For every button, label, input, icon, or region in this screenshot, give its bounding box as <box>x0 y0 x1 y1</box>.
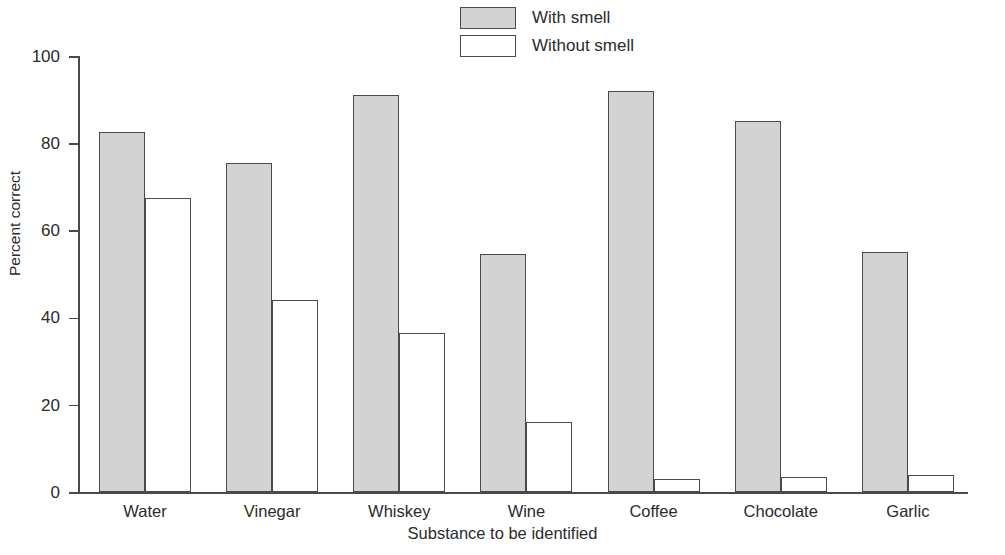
bar-chocolate-with-smell <box>735 121 781 492</box>
bar-vinegar-with-smell <box>226 163 272 492</box>
category-label-wine: Wine <box>508 502 546 521</box>
y-tick-20: 20 <box>69 405 78 407</box>
bar-chart: With smell Without smell 100 80 60 40 20… <box>0 0 1005 555</box>
y-tick-100: 100 <box>69 56 78 58</box>
legend-item-without-smell: Without smell <box>460 34 760 58</box>
bar-water-without-smell <box>145 198 191 492</box>
legend-label-with-smell: With smell <box>532 8 610 28</box>
bar-garlic-without-smell <box>908 475 954 492</box>
x-axis-line <box>78 492 968 494</box>
x-axis-title: Substance to be identified <box>0 524 1005 543</box>
bar-vinegar-without-smell <box>272 300 318 492</box>
category-label-water: Water <box>123 502 166 521</box>
legend-swatch-filled-icon <box>460 7 516 29</box>
legend-swatch-hollow-icon <box>460 35 516 57</box>
y-tick-label-60: 60 <box>41 221 60 241</box>
category-label-garlic: Garlic <box>886 502 929 521</box>
y-axis-title: Percent correct <box>6 171 24 276</box>
bar-coffee-without-smell <box>654 479 700 492</box>
legend-label-without-smell: Without smell <box>532 36 634 56</box>
bar-water-with-smell <box>99 132 145 492</box>
y-tick-label-0: 0 <box>51 483 60 503</box>
y-tick-40: 40 <box>69 318 78 320</box>
bar-whiskey-with-smell <box>353 95 399 492</box>
y-tick-label-40: 40 <box>41 308 60 328</box>
bar-garlic-with-smell <box>862 252 908 492</box>
category-label-whiskey: Whiskey <box>368 502 430 521</box>
y-tick-label-80: 80 <box>41 134 60 154</box>
legend-item-with-smell: With smell <box>460 6 760 30</box>
bars-layer <box>78 56 968 492</box>
bar-wine-without-smell <box>526 422 572 492</box>
category-label-vinegar: Vinegar <box>244 502 301 521</box>
category-label-coffee: Coffee <box>629 502 677 521</box>
y-tick-label-100: 100 <box>32 47 60 67</box>
y-tick-0: 0 <box>69 492 78 494</box>
plot-area: 100 80 60 40 20 0 WaterVinegarWhiskeyWin… <box>78 56 968 492</box>
y-tick-label-20: 20 <box>41 396 60 416</box>
bar-chocolate-without-smell <box>781 477 827 492</box>
bar-whiskey-without-smell <box>399 333 445 492</box>
bar-coffee-with-smell <box>608 91 654 492</box>
chart-legend: With smell Without smell <box>460 6 760 62</box>
y-tick-80: 80 <box>69 143 78 145</box>
bar-wine-with-smell <box>480 254 526 492</box>
y-tick-60: 60 <box>69 230 78 232</box>
category-label-chocolate: Chocolate <box>744 502 818 521</box>
